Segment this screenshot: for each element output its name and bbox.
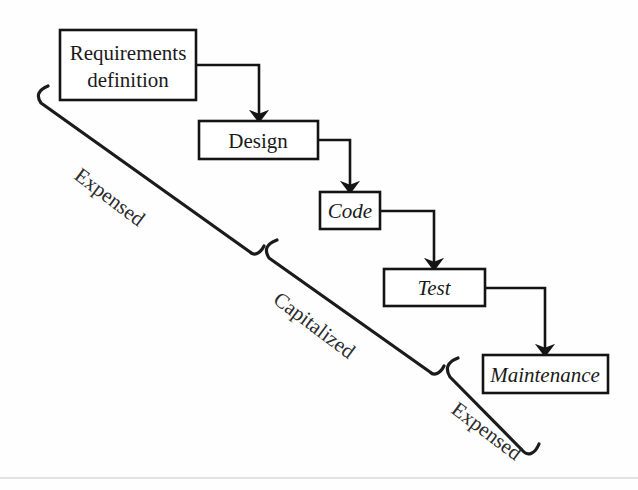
brace-label-expensed-lower: Expensed [447,397,527,466]
stage-label-test: Test [417,276,451,300]
connector-requirements-to-design [196,65,259,116]
stage-box-code[interactable]: Code [320,192,380,229]
stage-label-requirements-line2: definition [87,68,169,92]
stage-box-design[interactable]: Design [199,121,318,159]
waterfall-diagram-canvas: Requirements definition Design Code Test… [0,0,638,490]
brace-label-capitalized: Capitalized [269,287,360,364]
brace-labels-group: Expensed Capitalized Expensed [70,163,527,466]
stage-box-test[interactable]: Test [384,269,485,306]
connector-code-to-test [380,211,434,264]
connector-design-to-code [318,140,350,187]
stage-label-requirements-line1: Requirements [70,41,187,65]
stage-label-maintenance: Maintenance [489,363,600,387]
stage-box-maintenance[interactable]: Maintenance [483,355,608,393]
brace-expensed-upper [38,86,264,254]
stage-label-design: Design [228,129,288,153]
stage-label-code: Code [328,199,372,223]
connector-test-to-maintenance [485,288,545,350]
diagram-svg: Requirements definition Design Code Test… [0,0,638,490]
stage-box-requirements[interactable]: Requirements definition [60,30,196,100]
